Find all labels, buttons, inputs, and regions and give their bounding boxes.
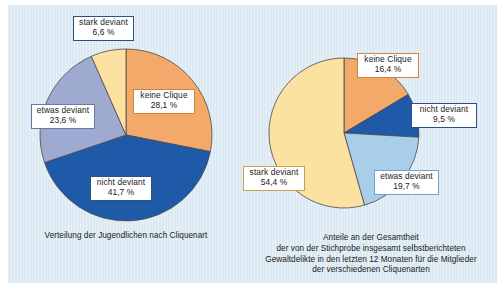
right-label-keine-clique[interactable]: keine Clique 16,4 %: [357, 53, 419, 78]
left-label-stark-deviant[interactable]: stark deviant 6,6 %: [73, 16, 134, 41]
right-label-stark-deviant-value: 54,4 %: [248, 178, 300, 188]
left-label-nicht-deviant-value: 41,7 %: [95, 188, 147, 198]
right-label-keine-clique-value: 16,4 %: [362, 65, 414, 75]
right-label-nicht-deviant[interactable]: nicht deviant 9,5 %: [411, 103, 477, 128]
right-label-etwas-deviant[interactable]: etwas deviant 19,7 %: [374, 170, 439, 195]
right-caption-line-1: Anteile an der Gesamtheit: [245, 233, 497, 244]
right-chart-caption: Anteile an der Gesamtheit der von der St…: [245, 233, 497, 276]
right-label-nicht-deviant-value: 9,5 %: [416, 115, 472, 125]
right-caption-line-4: der verschiedenen Cliquenarten: [245, 265, 497, 276]
left-caption-line-1: Verteilung der Jugendlichen nach Cliquen…: [16, 231, 236, 242]
left-label-etwas-deviant-value: 23,6 %: [36, 116, 90, 126]
right-caption-line-2: der von der Stichprobe insgesamt selbstb…: [245, 244, 497, 255]
left-chart-caption: Verteilung der Jugendlichen nach Cliquen…: [16, 231, 236, 242]
left-label-etwas-deviant[interactable]: etwas deviant 23,6 %: [31, 104, 95, 129]
left-label-keine-clique-value: 28,1 %: [138, 101, 190, 111]
right-label-stark-deviant[interactable]: stark deviant 54,4 %: [243, 166, 305, 191]
left-label-nicht-deviant[interactable]: nicht deviant 41,7 %: [90, 176, 152, 201]
left-label-keine-clique[interactable]: keine Clique 28,1 %: [133, 89, 195, 114]
figure-two-pie-charts: stark deviant 6,6 % keine Clique 28,1 % …: [0, 0, 503, 288]
right-caption-line-3: Gewaltdelikte in den letzten 12 Monaten …: [245, 255, 497, 266]
right-label-etwas-deviant-value: 19,7 %: [379, 182, 434, 192]
left-label-stark-deviant-value: 6,6 %: [78, 28, 129, 38]
